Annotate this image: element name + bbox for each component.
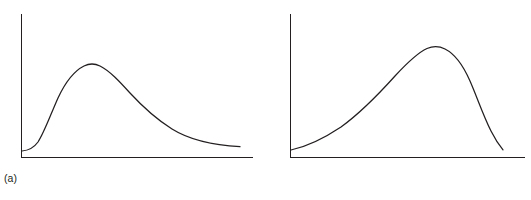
panel-b: (b) [265, 0, 531, 200]
panel-a-plot [0, 0, 265, 200]
panel-a: (a) [0, 0, 265, 200]
panel-b-plot [265, 0, 531, 200]
panel-a-density-curve [22, 64, 240, 151]
panel-a-axes [22, 14, 254, 158]
figure-root: (a) (b) [0, 0, 531, 200]
panel-b-density-curve [291, 47, 503, 150]
panel-a-caption: (a) [4, 172, 17, 185]
